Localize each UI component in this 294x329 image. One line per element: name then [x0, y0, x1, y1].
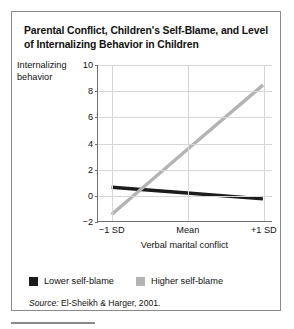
- x-tick-label: Mean: [176, 225, 199, 235]
- y-tick-mark: [95, 196, 98, 197]
- legend-item[interactable]: Lower self-blame: [29, 276, 114, 286]
- y-tick-label: 10: [83, 60, 93, 70]
- legend-swatch-icon: [29, 277, 38, 286]
- x-tick-label: −1 SD: [99, 225, 125, 235]
- chart-legend: Lower self-blameHigher self-blame: [29, 276, 269, 292]
- y-tick-label: 8: [88, 86, 93, 96]
- source-label: Source:: [29, 298, 59, 308]
- y-tick-mark: [95, 144, 98, 145]
- y-tick-mark: [95, 91, 98, 92]
- source-citation: El-Sheikh & Harger, 2001.: [59, 298, 161, 308]
- y-tick-label: 6: [88, 112, 93, 122]
- x-gridline: [188, 65, 189, 221]
- figure-title: Parental Conflict, Children's Self-Blame…: [24, 24, 268, 52]
- y-tick-label: −2: [83, 217, 93, 227]
- legend-label: Lower self-blame: [44, 276, 114, 286]
- y-axis-title-line2: behavior: [17, 72, 52, 82]
- y-tick-mark: [95, 117, 98, 118]
- legend-swatch-icon: [136, 277, 145, 286]
- figure-container: Parental Conflict, Children's Self-Blame…: [11, 11, 281, 311]
- y-axis-title: Internalizing behavior: [17, 60, 79, 83]
- x-gridline: [264, 65, 265, 221]
- plot-frame: 1086420−2−1 SDMean+1 SD: [97, 65, 272, 222]
- legend-label: Higher self-blame: [151, 276, 223, 286]
- x-gridline: [112, 65, 113, 221]
- y-tick-mark: [95, 170, 98, 171]
- y-tick-label: 0: [88, 191, 93, 201]
- y-gridline: [98, 91, 272, 92]
- legend-item[interactable]: Higher self-blame: [136, 276, 223, 286]
- x-axis-title: Verbal marital conflict: [97, 240, 272, 250]
- y-axis-title-line1: Internalizing: [17, 60, 67, 70]
- y-tick-mark: [95, 65, 98, 66]
- plot-inner: 1086420−2−1 SDMean+1 SD: [98, 65, 272, 221]
- y-gridline: [98, 196, 272, 197]
- y-gridline: [98, 170, 272, 171]
- bottom-divider: [11, 322, 95, 324]
- x-tick-label: +1 SD: [251, 225, 277, 235]
- y-gridline: [98, 117, 272, 118]
- y-tick-label: 4: [88, 139, 93, 149]
- y-gridline: [98, 65, 272, 66]
- y-tick-label: 2: [88, 165, 93, 175]
- chart-plot-area: Internalizing behavior 1086420−2−1 SDMea…: [12, 56, 282, 268]
- y-gridline: [98, 144, 272, 145]
- y-tick-mark: [95, 222, 98, 223]
- source-note: Source: El-Sheikh & Harger, 2001.: [29, 298, 160, 308]
